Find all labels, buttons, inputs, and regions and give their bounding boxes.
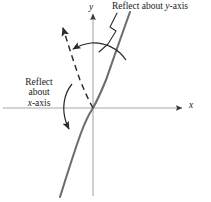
reflected-curve: [63, 28, 93, 108]
original-curve: [60, 12, 130, 197]
x-axis-label: x: [189, 100, 193, 110]
y-axis-label: y: [89, 2, 93, 12]
reflect-about-y-axis-caption: Reflect about y-axis: [112, 1, 188, 11]
caption-x-tail: -axis: [32, 98, 50, 108]
reflect-about-x-axis-caption: Reflect about x-axis: [12, 77, 66, 108]
caption-x-line2: about: [12, 87, 66, 97]
caption-y-text: Reflect about: [112, 1, 165, 11]
caption-x-line1: Reflect: [12, 77, 66, 87]
caption-x-line3: x-axis: [12, 98, 66, 108]
reflection-figure: Reflect about y-axis Reflect about x-axi…: [0, 0, 211, 202]
caption-y-tail: -axis: [170, 1, 188, 11]
